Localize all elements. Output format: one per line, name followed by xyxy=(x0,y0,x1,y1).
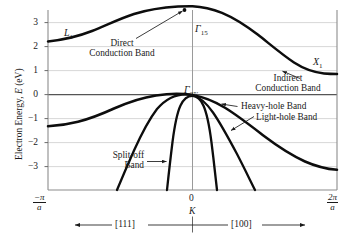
label-direct-conduction-band: Direct Conduction Band xyxy=(76,38,168,58)
label-indirect-conduction-band-line2: Conduction Band xyxy=(238,83,338,93)
direction-label-111: [111] xyxy=(115,219,135,229)
y-axis-title-prefix: Electron Energy, xyxy=(14,94,24,160)
y-tick-label-3: 3 xyxy=(22,17,38,27)
label-split-off-band-line2: Band xyxy=(78,160,144,170)
x-label-right-denominator: a xyxy=(327,203,338,212)
label-split-off-band-line1: Split-off xyxy=(78,150,144,160)
label-X1-sub: 1 xyxy=(319,62,323,70)
x-label-center-k: K xyxy=(189,206,195,216)
label-indirect-conduction-band-line1: Indirect xyxy=(238,73,338,83)
x-label-left-fraction: −π a xyxy=(33,193,46,212)
label-split-off-band: Split-off Band xyxy=(78,150,144,170)
x-label-right-fraction: 2π a xyxy=(327,193,338,212)
y-tick-label-1: 1 xyxy=(22,65,38,75)
label-light-hole-band: Light-hole Band xyxy=(256,112,317,122)
label-X1: X1 xyxy=(313,57,323,71)
label-direct-conduction-band-line2: Conduction Band xyxy=(76,48,168,58)
label-gamma15-sub: 15 xyxy=(201,29,208,37)
direct-conduction-leader-dot xyxy=(183,8,187,12)
y-axis-title: Electron Energy, E (eV) xyxy=(14,68,24,160)
label-heavy-hole-band: Heavy-hole Band xyxy=(241,101,306,111)
y-tick-label--3: −3 xyxy=(19,161,38,171)
y-axis-title-symbol: E xyxy=(14,88,24,94)
x-label-left: −π a xyxy=(33,192,46,212)
y-axis-title-unit: (eV) xyxy=(14,68,24,88)
band-structure-figure: 3 2 1 0 −1 −2 −3 Electron Energy, E (eV)… xyxy=(0,0,362,244)
y-tick-label-2: 2 xyxy=(22,41,38,51)
x-label-right: 2π a xyxy=(327,192,338,212)
label-indirect-conduction-band: Indirect Conduction Band xyxy=(238,73,338,93)
label-gamma25: Γ25′ xyxy=(184,85,198,99)
label-gamma25-sub: 25′ xyxy=(190,90,199,98)
direct-conduction-leader xyxy=(136,11,183,39)
label-L1-sub: 1 xyxy=(70,33,74,41)
x-label-center: 0 xyxy=(189,193,194,203)
y-tick-label-0: 0 xyxy=(22,89,38,99)
x-label-left-denominator: a xyxy=(33,203,46,212)
direction-label-100: [100] xyxy=(231,219,252,229)
label-gamma15: Γ15 xyxy=(195,24,208,38)
label-direct-conduction-band-line1: Direct xyxy=(76,38,168,48)
label-L1: L1 xyxy=(64,28,73,42)
light-hole-band-curve xyxy=(117,94,255,190)
